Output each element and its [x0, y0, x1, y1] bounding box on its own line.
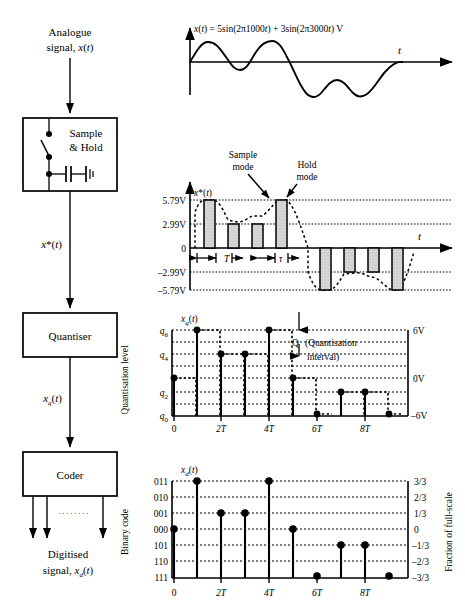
sh-pulse — [204, 200, 215, 248]
sh-chart-xlabel: t — [418, 230, 422, 242]
binary-chart-gridlines — [172, 481, 408, 561]
sample-mode-label-line1: Sample — [229, 150, 258, 160]
sh-interval-marker-T: T — [197, 253, 243, 264]
binary-xtick-0: 0 — [172, 588, 177, 598]
binary-chart-ylabel-left: Binary code — [120, 509, 130, 555]
sh-interval-marker-tau: τ — [258, 253, 299, 264]
sample-hold-switch-symbol — [41, 118, 65, 191]
analogue-chart-title: x(t) = 5sin(2π1000t) + 3sin(2π3000t) V — [193, 24, 343, 35]
binary-ytick-label-0: 011 — [154, 477, 168, 487]
hold-mode-label-line2: mode — [296, 172, 317, 182]
binary-right-label-3: 0 — [414, 525, 419, 535]
binary-sample-point — [170, 525, 178, 533]
sample-hold-label-line1: Sample — [70, 127, 103, 139]
binary-right-label-4: –1/3 — [411, 541, 429, 551]
binary-sample-point — [385, 572, 393, 580]
binary-right-label-6: –3/3 — [411, 573, 429, 583]
sample-hold-label-line2: & Hold — [69, 141, 103, 153]
binary-ytick-label-2: 001 — [154, 509, 169, 519]
sh-ytick-label-4: –5.79V — [157, 286, 186, 296]
sh-ytick-label-3: –2.99V — [157, 268, 186, 278]
binary-right-label-5: –2/3 — [411, 557, 429, 567]
signal-label-xq: xq(t) — [42, 392, 62, 407]
binary-ytick-label-6: 111 — [154, 573, 168, 583]
sh-pulse — [276, 200, 287, 248]
binary-ytick-label-3: 000 — [154, 525, 169, 535]
quantisation-interval-text-line1: (Quantisation — [305, 338, 357, 349]
hold-capacitor-symbol — [66, 166, 85, 182]
binary-xtick-2T: 2T — [216, 588, 227, 598]
analogue-input-label-line1: Analogue — [49, 26, 92, 38]
quantiser-chart-gridlines — [172, 330, 408, 404]
block-diagram: Analogue signal, x(t) Sample & Hold — [23, 26, 117, 579]
hold-mode-label-line1: Hold — [298, 160, 317, 170]
digitised-output-label-line2: signal, xd(t) — [43, 564, 94, 579]
sh-chart-negative-pulses — [320, 248, 403, 290]
quantiser-chart-signal-label: xq(t) — [180, 314, 198, 327]
binary-sample-point — [241, 509, 249, 517]
signal-label-x-star: x*(t) — [40, 238, 62, 251]
quantiser-chart-ylabel: Quantisation level — [120, 345, 130, 415]
binary-xtick-8T: 8T — [360, 588, 371, 598]
ground-symbol — [86, 166, 93, 182]
quantiser-xtick-0: 0 — [172, 424, 177, 434]
binary-ytick-label-5: 110 — [154, 557, 168, 567]
sh-marker-label-tau: τ — [279, 254, 283, 264]
binary-code-chart: xd(t) Binary code Fraction of full-scale… — [120, 465, 454, 598]
quantisation-interval-text-line2: interval) — [307, 352, 339, 363]
quantiser-chart: xq(t) Quantisation level q6 q4 q2 q0 6V … — [120, 312, 428, 434]
sh-pulse — [228, 224, 239, 248]
sh-ytick-label-0: 5.79V — [163, 196, 187, 206]
quantiser-xtick-4T: 4T — [264, 424, 275, 434]
sh-ytick-label-1: 2.99V — [163, 220, 187, 230]
quantisation-interval-annotation: Q (Quantisation interval) — [292, 312, 357, 363]
binary-xtick-4T: 4T — [264, 588, 275, 598]
quantiser-xtick-6T: 6T — [312, 424, 323, 434]
binary-right-label-2: 1/3 — [414, 509, 426, 519]
quantiser-right-label-6V: 6V — [413, 326, 425, 336]
binary-right-label-1: 2/3 — [414, 493, 426, 503]
quantiser-xtick-2T: 2T — [216, 424, 227, 434]
quantiser-ytick-q6: q6 — [160, 326, 169, 339]
binary-xtick-6T: 6T — [312, 588, 323, 598]
quantiser-ytick-q0: q0 — [160, 411, 169, 424]
quantisation-interval-symbol: Q — [292, 338, 299, 348]
quantiser-right-label-0V: 0V — [413, 374, 425, 384]
quantiser-right-label-minus6V: –6V — [410, 411, 428, 421]
binary-ytick-label-1: 010 — [154, 493, 169, 503]
figure-root: Analogue signal, x(t) Sample & Hold — [0, 0, 465, 616]
sample-mode-pointer-arrow — [248, 174, 269, 198]
sh-chart-signal-label: x*(t) — [193, 188, 212, 199]
analogue-chart-xlabel: t — [398, 44, 402, 56]
hold-mode-pointer-arrow — [287, 184, 297, 197]
binary-sample-point — [361, 541, 369, 549]
sh-pulse — [392, 248, 403, 290]
analogue-input-label-line2: signal, x(t) — [46, 41, 93, 54]
quantiser-label: Quantiser — [49, 330, 92, 342]
sh-pulse — [344, 248, 355, 272]
binary-sample-point — [193, 477, 201, 485]
binary-chart-ylabel-right: Fraction of full-scale — [444, 492, 454, 572]
digitised-output-label-line1: Digitised — [48, 548, 89, 560]
sh-ytick-label-2: 0 — [181, 244, 186, 254]
analogue-waveform-curve — [190, 41, 403, 97]
sh-pulse — [320, 248, 331, 290]
coder-output-ellipsis: ········ — [58, 509, 90, 518]
analogue-signal-chart: t x(t) = 5sin(2π1000t) + 3sin(2π3000t) V — [190, 24, 452, 97]
quantiser-ytick-q4: q4 — [160, 350, 169, 363]
binary-right-label-0: 3/3 — [414, 477, 426, 487]
sh-marker-label-T: T — [224, 254, 230, 264]
binary-chart-signal-label: xd(t) — [180, 465, 198, 478]
binary-sample-point — [265, 477, 273, 485]
binary-ytick-label-4: 101 — [154, 541, 169, 551]
quantiser-xtick-8T: 8T — [360, 424, 371, 434]
sample-mode-label-line2: mode — [232, 162, 253, 172]
sh-pulse — [368, 248, 379, 272]
figure-svg: Analogue signal, x(t) Sample & Hold — [0, 0, 465, 616]
coder-label: Coder — [57, 469, 84, 481]
binary-sample-point — [337, 541, 345, 549]
sample-hold-chart: t x*(t) 5.79V 2.99V 0 –2.99V –5.79V — [157, 150, 452, 296]
binary-sample-point — [217, 509, 225, 517]
quantiser-ytick-q2: q2 — [160, 388, 169, 401]
binary-sample-point — [289, 525, 297, 533]
